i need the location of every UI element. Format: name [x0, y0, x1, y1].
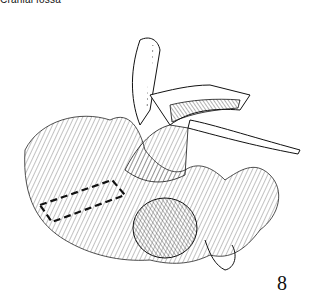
figure-number: 8 [277, 272, 287, 295]
retractor-blade [188, 120, 300, 154]
globe [133, 198, 197, 258]
surgical-illustration [0, 0, 324, 298]
bone-flap [132, 38, 160, 125]
dura-cut [170, 99, 240, 122]
